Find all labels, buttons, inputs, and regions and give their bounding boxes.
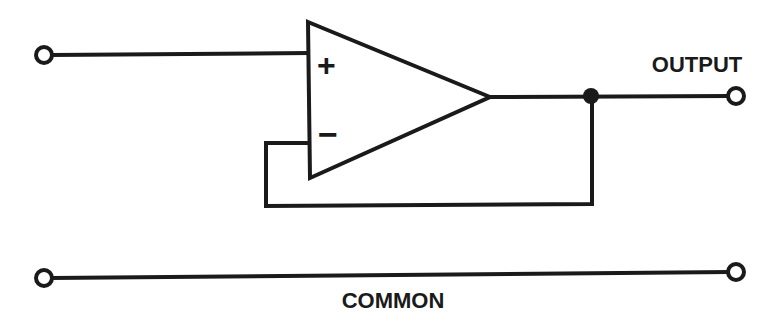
- output-wire: [490, 96, 728, 97]
- common-wire: [52, 272, 728, 278]
- common-left-terminal: [36, 270, 52, 286]
- inverting-sign: −: [318, 115, 338, 153]
- common-right-terminal: [728, 264, 744, 280]
- op-amp-triangle: [308, 22, 490, 178]
- non-inverting-sign: +: [317, 47, 336, 83]
- input-wire: [52, 53, 308, 55]
- input-terminal: [36, 47, 52, 63]
- common-label: COMMON: [342, 288, 445, 313]
- circuit-diagram: + − OUTPUT COMMON: [0, 0, 771, 330]
- feedback-wire: [266, 96, 592, 206]
- output-label: OUTPUT: [652, 52, 743, 77]
- output-terminal: [728, 88, 744, 104]
